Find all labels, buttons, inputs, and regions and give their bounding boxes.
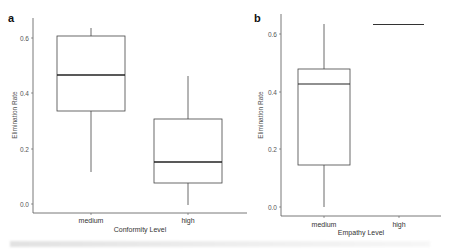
panel-b-label: b: [254, 12, 261, 24]
box-medium-a: [57, 28, 125, 172]
x-axis-label-b: Empathy Level: [338, 229, 385, 237]
y-ticks-a: 0.6 0.4 0.2 0.0: [20, 35, 33, 208]
figure-caption-blurred: [10, 241, 430, 247]
panel-b: b 0.6 0.4 0.2 0.0 Elimination Rate mediu…: [254, 12, 441, 237]
panel-a-label: a: [8, 12, 15, 24]
figure: a 0.6 0.4 0.2 0.0 Elimination Rate: [0, 0, 453, 251]
category-label: medium: [312, 221, 337, 228]
y-axis-label-b: Elimination Rate: [257, 91, 264, 139]
tick-label: 0.2: [268, 146, 277, 153]
tick-label: 0.0: [268, 204, 277, 211]
tick-label: 0.4: [268, 89, 277, 96]
category-label: high: [392, 221, 405, 229]
category-label: high: [181, 217, 194, 225]
category-label: medium: [79, 217, 104, 224]
x-axis-label-a: Conformity Level: [114, 226, 167, 234]
tick-label: 0.2: [20, 146, 29, 153]
tick-label: 0.0: [20, 201, 29, 208]
y-ticks-b: 0.6 0.4 0.2 0.0: [268, 31, 281, 211]
panel-a: a 0.6 0.4 0.2 0.0 Elimination Rate: [8, 12, 247, 234]
box-medium-b: [298, 24, 350, 207]
tick-label: 0.6: [20, 35, 29, 42]
tick-label: 0.4: [20, 90, 29, 97]
tick-label: 0.6: [268, 31, 277, 38]
box-high-a: [154, 76, 222, 205]
y-axis-label-a: Elimination Rate: [11, 91, 18, 139]
